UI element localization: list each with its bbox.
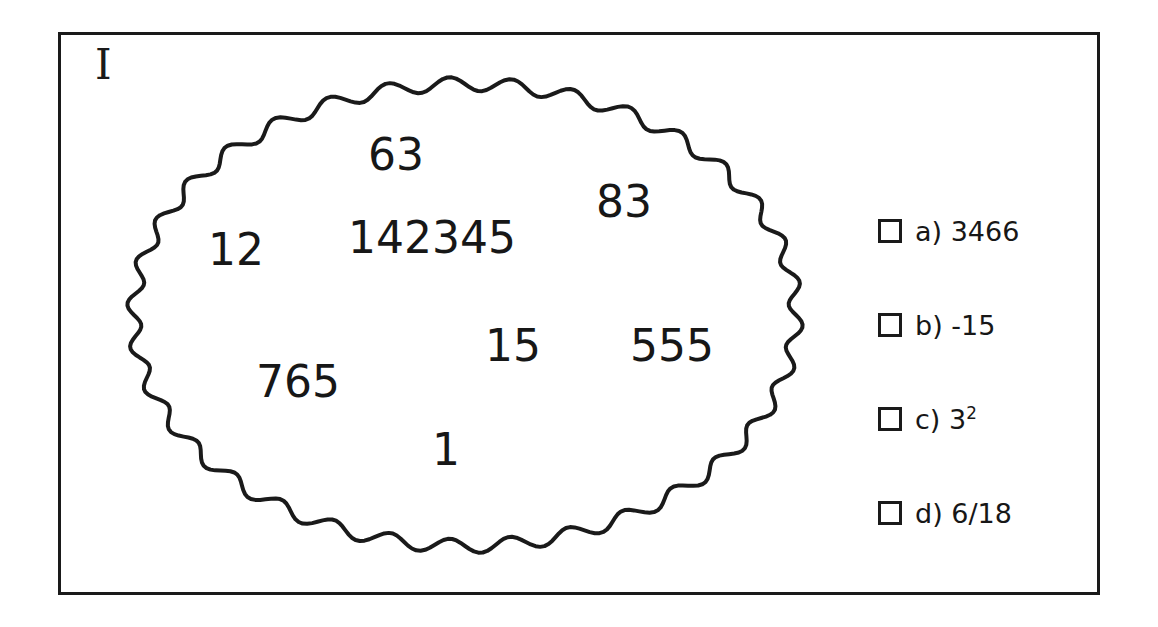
set-member-555: 555 [630,324,714,368]
set-member-765: 765 [256,360,340,404]
answer-option-letter-c: c) [915,404,940,435]
set-member-12: 12 [208,228,264,272]
answer-option-d[interactable]: d) 6/18 [878,497,1078,529]
answer-option-value-c: 3 [949,404,966,435]
answer-option-b[interactable]: b) -15 [878,309,1078,341]
answer-option-letter-a: a) [915,216,942,247]
answer-option-a[interactable]: a) 3466 [878,215,1078,247]
answer-option-value-a: 3466 [951,216,1020,247]
answer-option-exponent-c: 2 [966,403,977,423]
answer-option-label-c: c) 32 [915,406,977,433]
answer-option-label-b: b) -15 [915,312,995,339]
checkbox-icon-b[interactable] [878,313,902,337]
answer-option-label-d: d) 6/18 [915,500,1012,527]
set-member-83: 83 [596,180,652,224]
answer-option-value-d: 6/18 [951,498,1012,529]
figure-canvas: I 638312142345155557651 a) 3466b) -15c) … [0,0,1158,627]
answer-option-label-a: a) 3466 [915,218,1019,245]
checkbox-icon-c[interactable] [878,407,902,431]
set-member-142345: 142345 [348,216,516,260]
answer-option-value-b: -15 [951,310,995,341]
answer-options-list: a) 3466b) -15c) 32d) 6/18 [878,215,1078,529]
set-member-15: 15 [485,324,541,368]
answer-option-letter-b: b) [915,310,943,341]
set-member-63: 63 [368,133,424,177]
checkbox-icon-a[interactable] [878,219,902,243]
answer-option-letter-d: d) [915,498,943,529]
answer-option-c[interactable]: c) 32 [878,403,1078,435]
universal-set-label: I [95,44,112,86]
set-member-1: 1 [432,428,460,472]
checkbox-icon-d[interactable] [878,501,902,525]
wavy-oval-set-boundary [120,70,810,560]
